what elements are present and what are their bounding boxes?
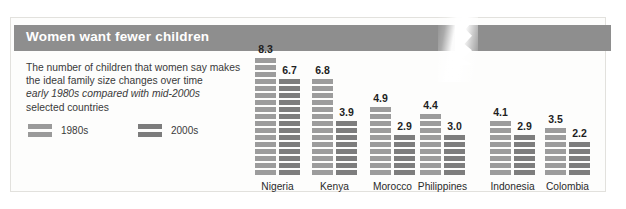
bar-group-morocco: 4.92.9Morocco (370, 107, 415, 175)
legend-item-1980s[interactable]: 1980s (28, 124, 88, 137)
bar-segment (255, 163, 276, 168)
bar-segments (569, 142, 590, 175)
bar-segment (444, 142, 465, 147)
bar-segment (336, 170, 357, 175)
bar-group-indonesia: 4.12.9Indonesia (490, 121, 535, 175)
bar-indonesia-2000s[interactable]: 2.9 (514, 135, 535, 175)
bar-segment (312, 156, 333, 161)
bar-kenya-2000s[interactable]: 3.9 (336, 121, 357, 175)
bar-segment (444, 163, 465, 168)
bar-segment (336, 142, 357, 147)
bar-segment (490, 128, 511, 133)
bar-morocco-1980s[interactable]: 4.9 (370, 107, 391, 175)
bar-segment (444, 170, 465, 175)
bar-segment (490, 170, 511, 175)
bar-segment (514, 156, 535, 161)
bar-segment (312, 128, 333, 133)
description-line-2: the ideal family size changes over time (26, 74, 241, 87)
bar-segment (255, 93, 276, 98)
bar-segment (370, 142, 391, 147)
bar-segment (336, 149, 357, 154)
bar-segment (255, 142, 276, 147)
bar-value-label: 2.9 (397, 120, 412, 132)
bar-segments (279, 79, 300, 175)
bar-segment (279, 79, 300, 84)
bar-segment (312, 149, 333, 154)
bar-segment (255, 65, 276, 70)
bar-segments (394, 135, 415, 175)
bar-segment (490, 142, 511, 147)
bar-value-label: 3.9 (339, 106, 354, 118)
bar-segment (255, 170, 276, 175)
bar-value-label: 6.8 (315, 64, 330, 76)
bar-segment (569, 163, 590, 168)
bar-value-label: 4.1 (493, 106, 508, 118)
bar-segment (514, 135, 535, 140)
bar-segment (394, 135, 415, 140)
bar-segment (312, 79, 333, 84)
bar-segment (394, 170, 415, 175)
bar-segments (336, 121, 357, 175)
bar-segment (312, 121, 333, 126)
bar-segment (255, 79, 276, 84)
bar-segment (444, 135, 465, 140)
bar-segment (279, 114, 300, 119)
bar-segment (569, 142, 590, 147)
bar-colombia-2000s[interactable]: 2.2 (569, 142, 590, 175)
legend-label-1980s: 1980s (61, 125, 88, 136)
legend-label-2000s: 2000s (171, 125, 198, 136)
legend-item-2000s[interactable]: 2000s (138, 124, 198, 137)
bar-colombia-1980s[interactable]: 3.5 (545, 128, 566, 175)
bar-kenya-1980s[interactable]: 6.8 (312, 79, 333, 175)
chart-legend: 1980s 2000s (26, 124, 246, 142)
bar-segment (279, 100, 300, 105)
bar-morocco-2000s[interactable]: 2.9 (394, 135, 415, 175)
bar-segment (569, 156, 590, 161)
bar-segment (490, 149, 511, 154)
bar-segment (312, 114, 333, 119)
page-title: Women want fewer children (26, 29, 209, 44)
bar-segment (444, 156, 465, 161)
bar-segment (255, 114, 276, 119)
bar-segment (370, 156, 391, 161)
bar-segment (312, 142, 333, 147)
bar-segment (569, 149, 590, 154)
bar-segment (394, 163, 415, 168)
bar-segment (279, 163, 300, 168)
country-label-philippines: Philippines (418, 181, 467, 192)
bar-segment (336, 156, 357, 161)
bar-segments (255, 58, 276, 175)
bar-segment (545, 163, 566, 168)
bar-segment (545, 156, 566, 161)
bar-segment (279, 170, 300, 175)
country-label-colombia: Colombia (546, 181, 589, 192)
bar-segment (394, 156, 415, 161)
bar-philippines-2000s[interactable]: 3.0 (444, 135, 465, 175)
country-label-kenya: Kenya (320, 181, 349, 192)
infographic-panel: Women want fewer children The number of … (0, 0, 626, 209)
bar-nigeria-1980s[interactable]: 8.3 (255, 58, 276, 175)
bar-segment (255, 86, 276, 91)
bar-segment (370, 128, 391, 133)
bar-philippines-1980s[interactable]: 4.4 (420, 114, 441, 175)
description-line-4: selected countries (26, 101, 241, 114)
bar-segment (279, 93, 300, 98)
description-line-3: early 1980s compared with mid-2000s (26, 87, 241, 100)
bar-segment (514, 142, 535, 147)
bar-segment (255, 121, 276, 126)
bar-value-label: 4.4 (423, 99, 438, 111)
bar-segment (420, 149, 441, 154)
bar-segment (312, 93, 333, 98)
bar-nigeria-2000s[interactable]: 6.7 (279, 79, 300, 175)
bar-value-label: 4.9 (373, 92, 388, 104)
bar-segment (420, 170, 441, 175)
bar-segment (420, 163, 441, 168)
bar-group-philippines: 4.43.0Philippines (420, 114, 465, 175)
legend-swatch-2000s-icon (138, 124, 162, 137)
country-label-indonesia: Indonesia (490, 181, 534, 192)
bar-segment (312, 100, 333, 105)
bar-segment (279, 156, 300, 161)
bar-indonesia-1980s[interactable]: 4.1 (490, 121, 511, 175)
bar-segment (336, 128, 357, 133)
bar-segment (394, 142, 415, 147)
